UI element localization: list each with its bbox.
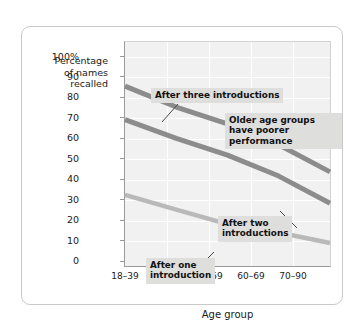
- y-tick-label-40: 40: [39, 174, 79, 184]
- y-tick-label-30: 30: [39, 195, 79, 205]
- x-tick-label-70-90: 70–90: [270, 271, 316, 281]
- annotation-after-one-introduction: After one introduction: [146, 258, 215, 284]
- y-tick-label-100: 100%: [39, 52, 79, 62]
- x-tick-label-18-39: 18–39: [102, 271, 148, 281]
- y-tick-label-60: 60: [39, 133, 79, 143]
- y-tick-label-70: 70: [39, 113, 79, 123]
- y-tick-label-0: 0: [39, 256, 79, 266]
- y-tick-label-80: 80: [39, 92, 79, 102]
- x-axis-title: Age group: [124, 309, 331, 320]
- y-tick-label-10: 10: [39, 236, 79, 246]
- y-tick-label-90: 90: [39, 72, 79, 82]
- figure-card: Percentage of names recalled 100% 90 80 …: [21, 26, 343, 305]
- annotation-older-age-groups: Older age groups have poorer performance: [225, 113, 342, 149]
- x-tick-label-60-69: 60–69: [228, 271, 274, 281]
- annotation-after-three-introductions: After three introductions: [151, 88, 283, 103]
- annotation-after-two-introductions: After two introductions: [218, 216, 292, 242]
- y-tick-label-50: 50: [39, 154, 79, 164]
- y-tick-label-20: 20: [39, 215, 79, 225]
